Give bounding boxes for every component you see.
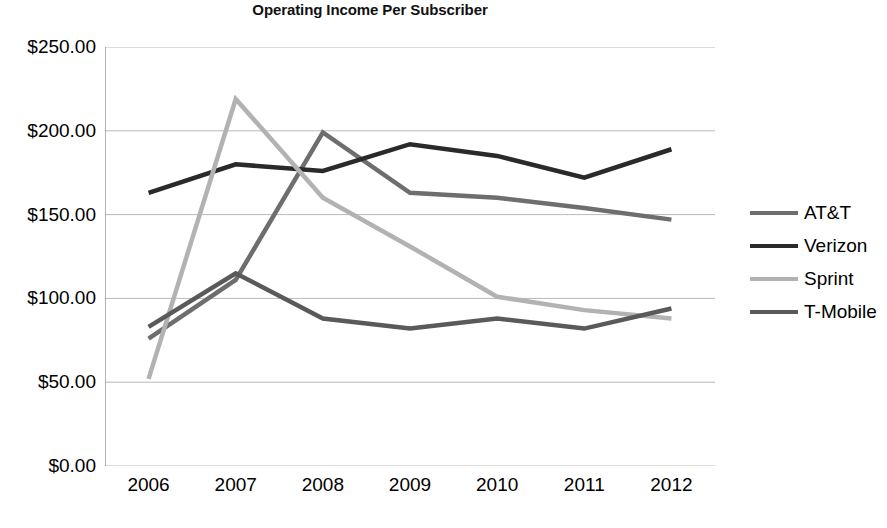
legend-label: AT&T [804, 203, 851, 222]
series-line-t-mobile [149, 273, 672, 328]
y-axis-tick-label: $50.00 [4, 372, 96, 391]
plot-svg [105, 47, 715, 466]
legend-swatch [750, 277, 798, 281]
x-axis-tick-label: 2009 [367, 474, 454, 496]
chart-title: Operating Income Per Subscriber [0, 1, 740, 18]
legend-swatch [750, 211, 798, 215]
series-line-verizon [149, 144, 672, 193]
x-axis-tick-label: 2012 [628, 474, 715, 496]
x-axis-tick-label: 2010 [454, 474, 541, 496]
y-axis-tick-label: $250.00 [4, 37, 96, 56]
legend-label: Verizon [804, 236, 867, 255]
y-axis-tick-label: $200.00 [4, 121, 96, 140]
legend-swatch [750, 244, 798, 248]
y-axis-tick-label: $0.00 [4, 456, 96, 475]
x-axis-tick-label: 2011 [541, 474, 628, 496]
legend-label: T-Mobile [804, 302, 877, 321]
legend-item-verizon[interactable]: Verizon [750, 229, 885, 262]
legend-item-at-t[interactable]: AT&T [750, 196, 885, 229]
chart-legend: AT&TVerizonSprintT-Mobile [750, 196, 885, 328]
x-axis-tick-label: 2007 [192, 474, 279, 496]
legend-item-sprint[interactable]: Sprint [750, 262, 885, 295]
x-axis-tick-label: 2008 [279, 474, 366, 496]
y-axis-tick-label: $150.00 [4, 205, 96, 224]
plot-area [105, 47, 715, 466]
series-line-at-t [149, 132, 672, 338]
legend-item-t-mobile[interactable]: T-Mobile [750, 295, 885, 328]
legend-label: Sprint [804, 269, 854, 288]
y-axis-tick-label: $100.00 [4, 288, 96, 307]
x-axis-labels: 2006200720082009201020112012 [105, 474, 715, 502]
legend-swatch [750, 310, 798, 314]
y-axis-labels: $0.00$50.00$100.00$150.00$200.00$250.00 [0, 0, 96, 528]
chart-container: Operating Income Per Subscriber $0.00$50… [0, 0, 887, 528]
series-line-sprint [149, 99, 672, 379]
x-axis-tick-label: 2006 [105, 474, 192, 496]
